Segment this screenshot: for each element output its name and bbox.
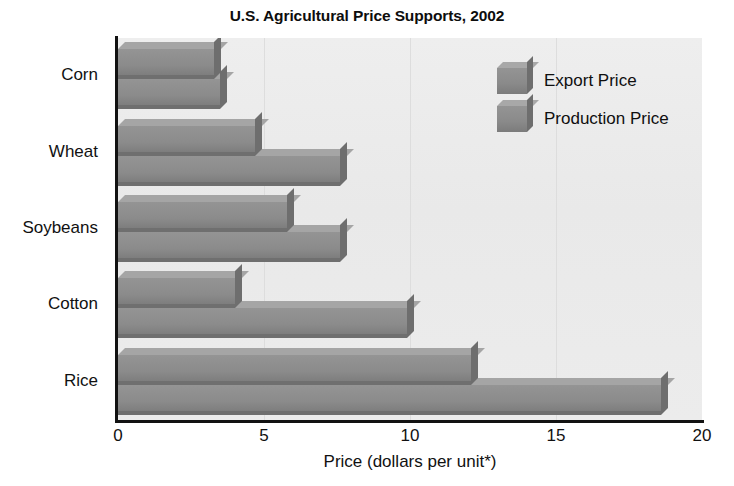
bar-side-face — [220, 65, 227, 109]
bar-bottom-shade — [118, 258, 340, 262]
legend-swatch-icon — [497, 106, 527, 132]
bar-soybeans-export-price — [118, 202, 287, 232]
y-tick-label-wheat: Wheat — [49, 142, 110, 162]
bar-side-face — [235, 264, 242, 308]
bar-bottom-shade — [118, 304, 235, 308]
bar-bottom-shade — [118, 182, 340, 186]
legend-swatch-side — [527, 94, 533, 132]
legend-label: Export Price — [544, 71, 637, 91]
legend-item-export-price[interactable]: Export Price — [497, 62, 669, 100]
x-axis-title: Price (dollars per unit*) — [118, 452, 702, 472]
bar-cotton-production-price — [118, 308, 407, 338]
bar-rice-export-price — [118, 355, 471, 385]
bar-corn-export-price — [118, 49, 214, 79]
x-tick-label-5: 5 — [244, 426, 284, 446]
bar-wheat-export-price — [118, 126, 255, 156]
bar-soybeans-production-price — [118, 232, 340, 262]
bar-top-face — [118, 42, 228, 49]
bar-side-face — [471, 341, 478, 385]
bar-cotton-export-price — [118, 278, 235, 308]
legend-swatch-front — [497, 106, 527, 132]
bar-side-face — [340, 218, 347, 262]
y-tick-label-soybeans: Soybeans — [22, 218, 110, 238]
x-tick-label-20: 20 — [682, 426, 722, 446]
bar-bottom-shade — [118, 105, 220, 109]
x-axis-line — [115, 420, 704, 423]
bar-bottom-shade — [118, 334, 407, 338]
bar-bottom-shade — [118, 411, 661, 415]
legend-label: Production Price — [544, 109, 669, 129]
bar-rice-production-price — [118, 385, 661, 415]
x-tick-label-0: 0 — [98, 426, 138, 446]
bar-top-face — [118, 271, 249, 278]
chart-title: U.S. Agricultural Price Supports, 2002 — [0, 7, 734, 25]
bar-side-face — [340, 142, 347, 186]
bar-top-face — [118, 348, 485, 355]
bar-corn-production-price — [118, 79, 220, 109]
legend-swatch-front — [497, 68, 527, 94]
y-axis-tick-labels: CornWheatSoybeansCottonRice — [0, 0, 110, 486]
bar-bottom-shade — [118, 152, 255, 156]
legend-swatch-icon — [497, 68, 527, 94]
bar-bottom-shade — [118, 75, 214, 79]
y-tick-label-rice: Rice — [64, 371, 110, 391]
bar-top-face — [118, 195, 301, 202]
y-tick-label-corn: Corn — [61, 65, 110, 85]
legend-swatch-side — [527, 56, 533, 94]
bar-side-face — [661, 371, 668, 415]
x-tick-label-15: 15 — [536, 426, 576, 446]
bar-side-face — [255, 112, 262, 156]
bar-wheat-production-price — [118, 156, 340, 186]
x-tick-label-10: 10 — [390, 426, 430, 446]
legend-item-production-price[interactable]: Production Price — [497, 100, 669, 138]
y-tick-label-cotton: Cotton — [48, 294, 110, 314]
bar-top-face — [118, 119, 269, 126]
bar-bottom-shade — [118, 228, 287, 232]
chart-legend: Export PriceProduction Price — [497, 62, 669, 138]
bar-bottom-shade — [118, 381, 471, 385]
bar-side-face — [287, 188, 294, 232]
bar-side-face — [407, 294, 414, 338]
chart-container: U.S. Agricultural Price Supports, 2002 C… — [0, 0, 734, 486]
